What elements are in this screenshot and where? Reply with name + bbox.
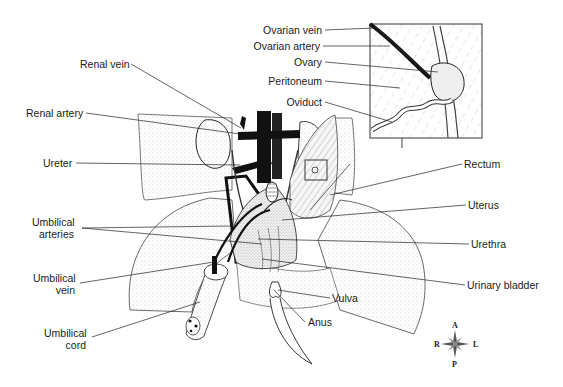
label-ureter: Ureter [43,157,72,169]
label-vulva: Vulva [332,292,358,304]
label-urethra: Urethra [471,238,506,250]
compass-left: L [473,340,478,349]
label-rectum: Rectum [464,158,500,170]
label-oviduct: Oviduct [262,96,322,108]
label-renal-vein: Renal vein [80,58,130,70]
compass-right: R [434,340,440,349]
label-anus: Anus [308,316,332,328]
compass-anterior: A [452,321,458,330]
compass-rose-icon [441,330,469,358]
label-ovarian-artery: Ovarian artery [250,40,320,52]
compass-posterior: P [452,360,457,369]
label-umbilical-vein: Umbilical vein [33,272,75,296]
label-ovary: Ovary [262,56,322,68]
label-peritoneum: Peritoneum [258,75,322,87]
label-urinary-bladder: Urinary bladder [467,279,539,291]
label-ovarian-vein: Ovarian vein [258,24,322,36]
label-renal-artery: Renal artery [26,107,83,119]
ovary-inset [370,24,482,148]
label-umbilical-cord: Umbilical cord [44,327,86,351]
label-uterus: Uterus [468,199,499,211]
label-umbilical-arteries: Umbilical arteries [32,216,74,240]
